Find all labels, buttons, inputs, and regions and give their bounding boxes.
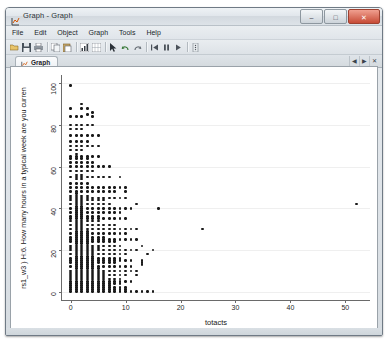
data-point [86,207,89,210]
data-point [113,217,116,220]
x-axis-label: 0 [69,304,73,311]
toolbar-separator [187,42,188,52]
data-point [86,155,89,158]
graph-canvas[interactable]: rs1_w3 ) H:6. How many hours in a typica… [10,66,378,332]
data-point [91,111,94,114]
data-point [113,245,116,248]
data-point [91,165,94,168]
x-axis-tick [181,300,182,303]
pointer-icon[interactable] [108,42,119,53]
data-point [124,238,127,241]
tab-prev-icon[interactable]: ◀ [349,56,359,66]
toolbar-separator [47,42,48,52]
data-point [113,190,116,193]
paste-icon[interactable] [62,42,73,53]
data-point [86,230,89,233]
open-icon[interactable] [9,42,20,53]
x-axis-label: 30 [232,304,240,311]
data-point [69,170,72,173]
redo-icon[interactable] [132,42,143,53]
data-point [130,280,133,283]
data-point [97,249,100,252]
data-point [75,145,78,148]
data-point [102,199,105,202]
data-point [69,140,72,143]
y-axis-tick [59,167,62,168]
data-point [86,274,89,277]
data-point [130,238,133,241]
grid-icon[interactable] [91,42,102,53]
data-point [124,286,127,289]
data-point [113,265,116,268]
tab-close-icon[interactable]: ✕ [369,56,379,66]
data-point [119,176,122,179]
data-point [86,140,89,143]
data-point [119,232,122,235]
data-point [108,270,111,273]
data-point [119,217,122,220]
data-point [69,155,72,158]
data-point [102,265,105,268]
data-point [75,224,78,227]
data-point [69,182,72,185]
undo-icon[interactable] [120,42,131,53]
grid-line [62,125,370,126]
maximize-button[interactable]: □ [324,9,347,24]
data-point [124,280,127,283]
data-point [102,232,105,235]
plot-area[interactable]: 02040608010001020304050totacts [61,75,370,301]
data-point [69,236,72,239]
data-point [97,224,100,227]
data-point [91,211,94,214]
menu-tools[interactable]: Tools [118,29,136,36]
data-point [113,186,116,189]
data-point [86,203,89,206]
data-point [108,217,111,220]
tab-label: Graph [31,59,50,66]
save-icon[interactable] [21,42,32,53]
data-point [119,280,122,283]
data-point [75,199,78,202]
data-point [124,228,127,231]
data-point [75,149,78,152]
pause-icon[interactable] [161,42,172,53]
menu-edit[interactable]: Edit [33,29,47,36]
data-point [135,228,138,231]
menu-graph[interactable]: Graph [88,29,109,36]
first-icon[interactable] [149,42,160,53]
next-icon[interactable] [173,42,184,53]
menu-file[interactable]: File [11,29,24,36]
copy-icon[interactable] [50,42,61,53]
data-point [75,190,78,193]
tab-next-icon[interactable]: ▶ [359,56,369,66]
data-point [130,265,133,268]
data-point [75,165,78,168]
data-point [86,255,89,258]
data-point [80,107,83,110]
graph-editor-icon[interactable] [79,42,90,53]
close-icon: ✕ [361,13,367,20]
minimize-button[interactable]: – [300,9,323,24]
title-bar[interactable]: Graph - Graph – □ ✕ [6,8,382,26]
toolbar [6,40,382,55]
data-point [91,190,94,193]
x-axis-tick [290,300,291,303]
print-icon[interactable] [33,42,44,53]
data-point [124,253,127,256]
data-point [75,124,78,127]
data-point [119,245,122,248]
data-point [91,228,94,231]
data-point [75,128,78,131]
data-point [97,155,100,158]
y-axis-label: 80 [51,125,58,133]
more-icon[interactable] [190,42,201,53]
data-point [108,224,111,227]
close-button[interactable]: ✕ [348,9,380,24]
menu-help[interactable]: Help [145,29,161,36]
graph-window: Graph - Graph – □ ✕ File Edit Object Gra… [5,7,383,336]
data-point [69,149,72,152]
data-point [113,238,116,241]
menu-object[interactable]: Object [56,29,78,36]
data-point [80,103,83,106]
x-axis-tick [345,300,346,303]
